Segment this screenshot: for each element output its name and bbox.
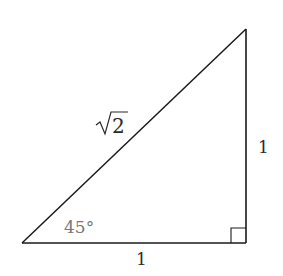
angle-label: 45° <box>64 217 94 237</box>
vertical-leg-label: 1 <box>258 137 269 157</box>
horizontal-leg-label: 1 <box>136 249 147 269</box>
right-triangle-diagram: 2 1 1 45° <box>0 0 283 276</box>
hypotenuse-radicand: 2 <box>112 114 125 138</box>
background <box>0 0 283 276</box>
